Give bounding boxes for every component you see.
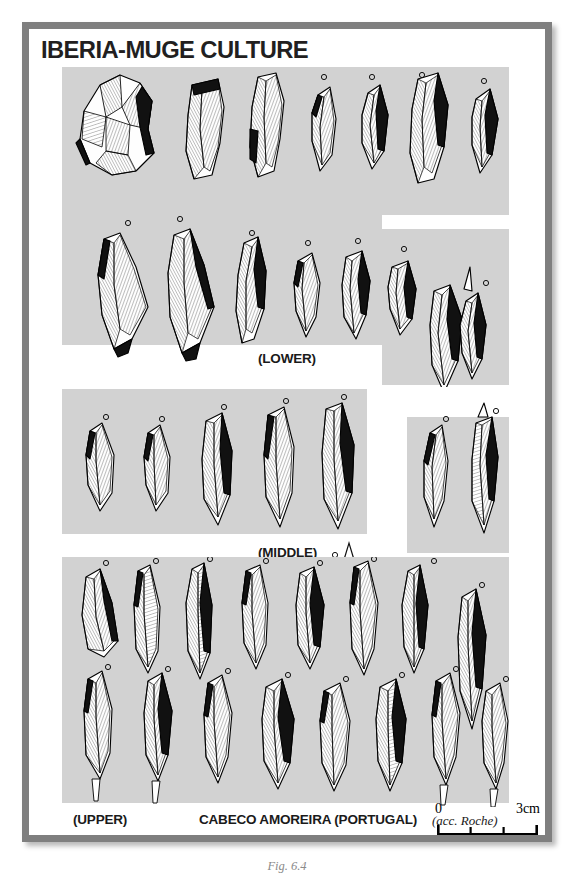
figure-caption: Fig. 6.4 [0,859,574,873]
credit-label: (acc. Roche) [432,813,498,829]
artifact-group-middle [62,389,509,554]
artifact-group-lower [62,67,509,387]
section-label-lower: (LOWER) [258,351,316,366]
figure-plate-frame: IBERIA-MUGE CULTURE [22,22,552,842]
site-label: CABECO AMOREIRA (PORTUGAL) [199,812,417,827]
artifact-group-upper [62,557,509,807]
page-title: IBERIA-MUGE CULTURE [41,36,308,64]
figure-plate-inner: IBERIA-MUGE CULTURE [29,29,545,835]
section-label-upper: (UPPER) [73,812,127,827]
scale-max-label: 3cm [516,801,540,817]
